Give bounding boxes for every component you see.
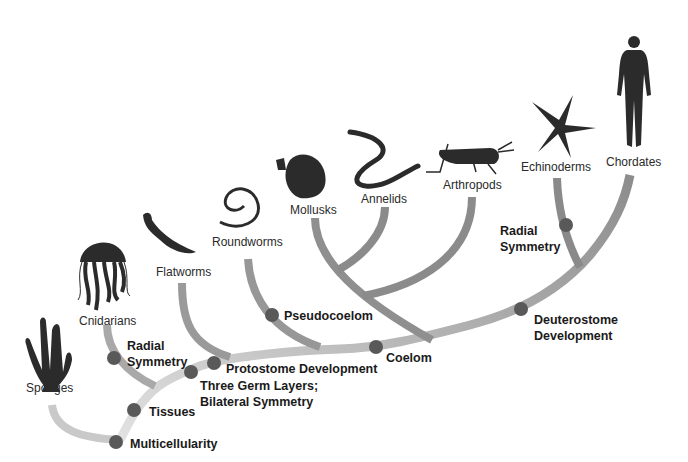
branch-sponges [52,405,120,440]
taxon-label-roundworms: Roundworms [212,235,283,249]
taxon-label-echinoderms: Echinoderms [521,160,591,174]
branch-arthropods [363,197,472,296]
trait-line: Three Germ Layers; [200,378,318,394]
trait-label-coelom: Coelom [386,350,432,366]
taxon-label-annelids: Annelids [361,192,407,206]
trait-line: Symmetry [127,354,187,370]
trait-label-pseudocoelom: Pseudocoelom [284,308,373,324]
node-protostome [207,356,221,370]
trait-line: Radial [500,223,560,239]
shell-icon [276,155,326,199]
trait-label-radial-symmetry-echinoderms: Radial Symmetry [500,223,560,255]
trait-label-multicellularity: Multicellularity [130,436,218,452]
trait-label-tissues: Tissues [149,404,195,420]
taxon-label-flatworms: Flatworms [156,265,211,279]
node-multicellularity [109,435,123,449]
node-radial-symmetry-cnidarians [107,351,121,365]
segmented-worm-icon [350,132,418,186]
roundworm-icon [220,189,258,226]
phylogenetic-tree [0,0,688,462]
starfish-icon [532,95,596,158]
human-icon [617,36,651,147]
branch-flatworms [182,283,230,357]
trait-label-radial-symmetry-cnidarians: Radial Symmetry [127,338,187,370]
grasshopper-icon [426,142,514,174]
trait-line: Development [534,328,618,344]
node-tissues [127,403,141,417]
taxon-label-arthropods: Arthropods [443,178,502,192]
node-pseudocoelom [265,308,279,322]
node-deuterostome [514,302,528,316]
trait-line: Bilateral Symmetry [200,394,318,410]
branch-roundworms [248,259,320,347]
trait-line: Symmetry [500,239,560,255]
node-radial-symmetry-echinoderms [559,218,573,232]
trait-label-protostome: Protostome Development [226,361,377,377]
flatworm-icon [143,213,196,254]
branch-annelids [338,207,385,270]
trait-line: Radial [127,338,187,354]
taxon-label-cnidarians: Cnidarians [79,314,136,328]
taxon-label-chordates: Chordates [606,155,661,169]
trait-label-deuterostome: Deuterostome Development [534,312,618,344]
taxon-label-sponges: Sponges [26,381,73,395]
node-coelom [369,340,383,354]
trait-label-three-germ-layers: Three Germ Layers; Bilateral Symmetry [200,378,318,410]
trait-line: Deuterostome [534,312,618,328]
taxon-label-mollusks: Mollusks [290,203,337,217]
jellyfish-icon [78,242,130,310]
